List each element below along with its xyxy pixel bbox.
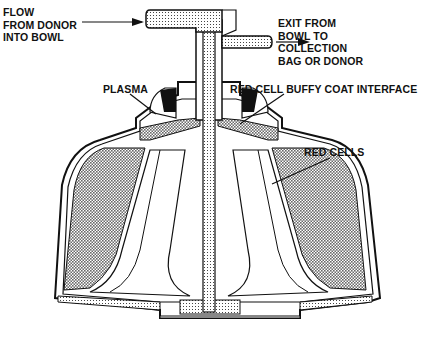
outlet-port: [222, 36, 272, 48]
inlet-port: [146, 10, 222, 32]
inflow-arrow: [82, 18, 144, 26]
red-cells-label: RED CELLS: [304, 146, 364, 159]
center-tube: [203, 22, 215, 312]
plasma-label: PLASMA: [103, 83, 148, 96]
outlet-neck: [222, 10, 236, 36]
interface-label: RED CELL BUFFY COAT INTERFACE: [230, 83, 417, 96]
outflow-label: EXIT FROM BOWL TO COLLECTION BAG OR DONO…: [278, 17, 363, 67]
inflow-label: FLOW FROM DONOR INTO BOWL: [3, 6, 77, 44]
